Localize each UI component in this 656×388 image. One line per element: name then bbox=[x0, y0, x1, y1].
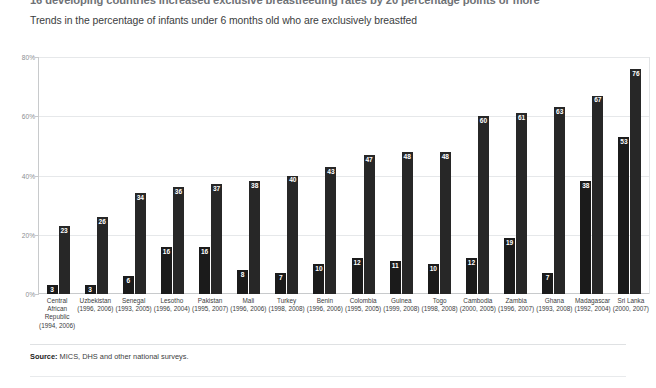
bar[interactable] bbox=[592, 96, 603, 294]
bar-column[interactable]: 37 bbox=[211, 57, 222, 294]
bar-column[interactable]: 40 bbox=[287, 57, 298, 294]
bar-column[interactable]: 16 bbox=[161, 57, 172, 294]
source-label: Source: bbox=[30, 352, 58, 361]
bar-column[interactable]: 10 bbox=[428, 57, 439, 294]
bar-column[interactable]: 67 bbox=[592, 57, 603, 294]
bar[interactable] bbox=[516, 113, 527, 294]
bar-column[interactable]: 10 bbox=[313, 57, 324, 294]
x-axis-category-label: Mali(1996, 2006) bbox=[229, 297, 267, 347]
bar[interactable] bbox=[428, 264, 439, 294]
bar[interactable] bbox=[390, 261, 401, 294]
bar-column[interactable]: 60 bbox=[478, 57, 489, 294]
bar-column[interactable]: 19 bbox=[504, 57, 515, 294]
bar[interactable] bbox=[402, 152, 413, 294]
bar-group[interactable]: 1148 bbox=[382, 57, 420, 294]
x-axis-category-label: Sri Lanka(2000, 2007) bbox=[612, 297, 650, 347]
bar[interactable] bbox=[287, 176, 298, 295]
category-name: Pakistan bbox=[192, 297, 228, 305]
category-years: (1996, 2006) bbox=[230, 305, 266, 313]
bar[interactable] bbox=[630, 69, 641, 294]
bar[interactable] bbox=[173, 187, 184, 294]
bar-column[interactable]: 26 bbox=[97, 57, 108, 294]
category-name: Togo bbox=[422, 297, 458, 305]
category-years: (1996, 2006) bbox=[307, 305, 343, 313]
bar-column[interactable]: 12 bbox=[352, 57, 363, 294]
x-axis-category-label: Ghana(1993, 2008) bbox=[535, 297, 573, 347]
bar-column[interactable]: 53 bbox=[618, 57, 629, 294]
category-name: Colombia bbox=[345, 297, 381, 305]
bar[interactable] bbox=[440, 152, 451, 294]
bar-column[interactable]: 38 bbox=[580, 57, 591, 294]
bar[interactable] bbox=[325, 167, 336, 294]
bar[interactable] bbox=[554, 107, 565, 294]
bar[interactable] bbox=[478, 116, 489, 294]
bar-group[interactable]: 634 bbox=[115, 57, 153, 294]
bar-group[interactable]: 1048 bbox=[420, 57, 458, 294]
bar-column[interactable]: 43 bbox=[325, 57, 336, 294]
bar-column[interactable]: 38 bbox=[249, 57, 260, 294]
bar-column[interactable]: 76 bbox=[630, 57, 641, 294]
bar[interactable] bbox=[504, 238, 515, 294]
bar[interactable] bbox=[199, 247, 210, 294]
category-years: (1994, 2006) bbox=[39, 322, 75, 330]
bar-group[interactable]: 3867 bbox=[573, 57, 611, 294]
bar-column[interactable]: 7 bbox=[542, 57, 553, 294]
bar-column[interactable]: 7 bbox=[275, 57, 286, 294]
category-years: (1996, 2006) bbox=[77, 305, 113, 313]
bar-group[interactable]: 740 bbox=[268, 57, 306, 294]
bar[interactable] bbox=[135, 193, 146, 294]
bar[interactable] bbox=[275, 273, 286, 294]
bar[interactable] bbox=[364, 155, 375, 294]
bar-column[interactable]: 34 bbox=[135, 57, 146, 294]
bar-column[interactable]: 12 bbox=[466, 57, 477, 294]
bar-column[interactable]: 3 bbox=[85, 57, 96, 294]
bar-column[interactable]: 48 bbox=[402, 57, 413, 294]
bar[interactable] bbox=[237, 270, 248, 294]
bar-group[interactable]: 1636 bbox=[153, 57, 191, 294]
bar-group[interactable]: 1260 bbox=[458, 57, 496, 294]
bar-group[interactable]: 323 bbox=[39, 57, 77, 294]
bar-column[interactable]: 3 bbox=[47, 57, 58, 294]
bar[interactable] bbox=[313, 264, 324, 294]
category-name: Sri Lanka bbox=[613, 297, 649, 305]
bar-column[interactable]: 16 bbox=[199, 57, 210, 294]
category-years: (1995, 2005) bbox=[345, 305, 381, 313]
bar[interactable] bbox=[97, 217, 108, 294]
footer-divider-bottom bbox=[30, 376, 626, 377]
bar-group[interactable]: 1043 bbox=[306, 57, 344, 294]
bar-column[interactable]: 6 bbox=[123, 57, 134, 294]
bar-group[interactable]: 5376 bbox=[611, 57, 649, 294]
bar-group[interactable]: 1247 bbox=[344, 57, 382, 294]
bar-group[interactable]: 1637 bbox=[192, 57, 230, 294]
bar-column[interactable]: 8 bbox=[237, 57, 248, 294]
bar-column[interactable]: 11 bbox=[390, 57, 401, 294]
bar-column[interactable]: 63 bbox=[554, 57, 565, 294]
bar[interactable] bbox=[85, 285, 96, 294]
bar-group[interactable]: 326 bbox=[77, 57, 115, 294]
bar-column[interactable]: 47 bbox=[364, 57, 375, 294]
bar[interactable] bbox=[249, 181, 260, 294]
bar-group[interactable]: 1961 bbox=[497, 57, 535, 294]
bar[interactable] bbox=[618, 137, 629, 294]
bar[interactable] bbox=[466, 258, 477, 294]
bar-group[interactable]: 763 bbox=[535, 57, 573, 294]
bar[interactable] bbox=[59, 226, 70, 294]
bar-pair: 1247 bbox=[344, 57, 382, 294]
bar-column[interactable]: 61 bbox=[516, 57, 527, 294]
bar[interactable] bbox=[352, 258, 363, 294]
bar-column[interactable]: 48 bbox=[440, 57, 451, 294]
bar[interactable] bbox=[123, 276, 134, 294]
x-axis-category-label: Senegal(1993, 2005) bbox=[115, 297, 153, 347]
bar[interactable] bbox=[580, 181, 591, 294]
bar[interactable] bbox=[211, 184, 222, 294]
bar[interactable] bbox=[47, 285, 58, 294]
category-years: (1999, 2008) bbox=[383, 305, 419, 313]
bar[interactable] bbox=[161, 247, 172, 294]
bar-column[interactable]: 36 bbox=[173, 57, 184, 294]
bar-pair: 1637 bbox=[192, 57, 230, 294]
bar-pair: 1043 bbox=[306, 57, 344, 294]
y-axis-tick-label: 60% bbox=[22, 113, 35, 120]
bar-column[interactable]: 23 bbox=[59, 57, 70, 294]
bar[interactable] bbox=[542, 273, 553, 294]
bar-group[interactable]: 838 bbox=[230, 57, 268, 294]
